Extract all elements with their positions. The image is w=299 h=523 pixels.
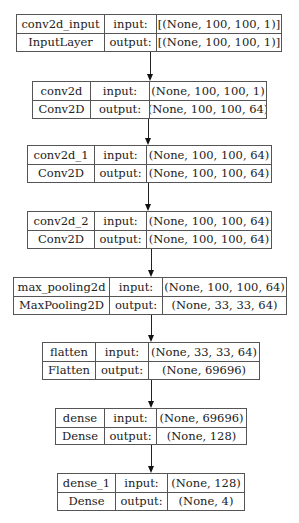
input-shape: (None, 100, 100, 64) <box>162 278 286 296</box>
layer-name: flatten <box>43 343 95 361</box>
layer-name: max_pooling2d <box>14 278 109 296</box>
layer-node-max-pooling2d: max_pooling2dinput:(None, 100, 100, 64)M… <box>13 277 287 315</box>
input-shape: [(None, 100, 100, 1)] <box>156 15 281 33</box>
edge-line <box>148 119 149 139</box>
output-row: Denseoutput:(None, 128) <box>56 427 246 444</box>
input-row: conv2d_1input:(None, 100, 100, 64) <box>28 146 271 165</box>
output-label: output: <box>104 33 156 51</box>
input-label: input: <box>94 146 146 164</box>
edge-line <box>151 380 152 402</box>
input-label: input: <box>104 409 156 427</box>
input-shape: (None, 33, 33, 64) <box>148 343 259 361</box>
input-shape: (None, 100, 100, 64) <box>146 212 271 230</box>
arrow-down-icon <box>148 401 154 408</box>
layer-node-dense-1: dense_1input:(None, 128)Denseoutput:(Non… <box>57 473 245 511</box>
layer-class: Dense <box>56 427 104 444</box>
output-row: Conv2Doutput:(None, 100, 100, 64) <box>33 100 266 118</box>
output-row: Conv2Doutput:(None, 100, 100, 64) <box>28 164 271 182</box>
edge-line <box>151 315 152 336</box>
layer-node-conv2d-input: conv2d_inputinput:[(None, 100, 100, 1)]I… <box>16 14 282 52</box>
input-row: conv2dinput:(None, 100, 100, 1) <box>33 82 266 101</box>
input-row: flatteninput:(None, 33, 33, 64) <box>43 343 259 362</box>
layer-class: Dense <box>58 492 115 510</box>
arrow-down-icon <box>148 270 154 277</box>
layer-node-flatten: flatteninput:(None, 33, 33, 64)Flattenou… <box>42 342 260 380</box>
edge-line <box>151 249 152 271</box>
output-shape: (None, 69696) <box>148 361 259 379</box>
output-label: output: <box>104 427 156 444</box>
edge-line <box>148 183 149 205</box>
layer-node-dense: denseinput:(None, 69696)Denseoutput:(Non… <box>55 408 247 445</box>
input-row: max_pooling2dinput:(None, 100, 100, 64) <box>14 278 286 297</box>
input-row: conv2d_2input:(None, 100, 100, 64) <box>28 212 271 231</box>
output-row: Denseoutput:(None, 4) <box>58 492 244 510</box>
layer-name: conv2d_input <box>17 15 104 33</box>
output-label: output: <box>95 361 148 379</box>
input-label: input: <box>90 82 149 100</box>
arrow-down-icon <box>147 74 153 81</box>
output-shape: [(None, 100, 100, 1)] <box>156 33 281 51</box>
layer-class: Conv2D <box>33 100 90 118</box>
output-label: output: <box>94 164 146 182</box>
input-shape: (None, 100, 100, 1) <box>149 82 266 100</box>
output-row: Conv2Doutput:(None, 100, 100, 64) <box>28 230 271 248</box>
input-row: conv2d_inputinput:[(None, 100, 100, 1)] <box>17 15 281 34</box>
layer-name: dense <box>56 409 104 427</box>
input-row: dense_1input:(None, 128) <box>58 474 244 493</box>
output-shape: (None, 100, 100, 64) <box>146 164 271 182</box>
output-shape: (None, 100, 100, 64) <box>149 100 266 118</box>
output-shape: (None, 100, 100, 64) <box>146 230 271 248</box>
arrow-down-icon <box>148 335 154 342</box>
input-shape: (None, 69696) <box>156 409 246 427</box>
input-label: input: <box>95 343 148 361</box>
layer-node-conv2d: conv2dinput:(None, 100, 100, 1)Conv2Dout… <box>32 81 267 119</box>
edge-line <box>150 52 151 75</box>
arrow-down-icon <box>145 138 151 145</box>
layer-node-conv2d-2: conv2d_2input:(None, 100, 100, 64)Conv2D… <box>27 211 272 249</box>
output-row: Flattenoutput:(None, 69696) <box>43 361 259 379</box>
layer-name: conv2d <box>33 82 90 100</box>
layer-class: MaxPooling2D <box>14 296 109 314</box>
layer-node-conv2d-1: conv2d_1input:(None, 100, 100, 64)Conv2D… <box>27 145 272 183</box>
input-shape: (None, 128) <box>167 474 244 492</box>
layer-class: Conv2D <box>28 164 94 182</box>
arrow-down-icon <box>148 466 154 473</box>
output-label: output: <box>109 296 162 314</box>
edge-line <box>151 445 152 467</box>
input-label: input: <box>115 474 167 492</box>
output-row: InputLayeroutput:[(None, 100, 100, 1)] <box>17 33 281 51</box>
input-label: input: <box>94 212 146 230</box>
arrow-down-icon <box>145 204 151 211</box>
layer-class: Conv2D <box>28 230 94 248</box>
output-label: output: <box>94 230 146 248</box>
output-shape: (None, 128) <box>156 427 246 444</box>
input-row: denseinput:(None, 69696) <box>56 409 246 428</box>
output-shape: (None, 33, 33, 64) <box>162 296 286 314</box>
layer-class: InputLayer <box>17 33 104 51</box>
layer-name: conv2d_2 <box>28 212 94 230</box>
output-row: MaxPooling2Doutput:(None, 33, 33, 64) <box>14 296 286 314</box>
output-label: output: <box>90 100 149 118</box>
input-label: input: <box>104 15 156 33</box>
layer-name: conv2d_1 <box>28 146 94 164</box>
output-shape: (None, 4) <box>167 492 244 510</box>
output-label: output: <box>115 492 167 510</box>
layer-class: Flatten <box>43 361 95 379</box>
input-label: input: <box>109 278 162 296</box>
input-shape: (None, 100, 100, 64) <box>146 146 271 164</box>
layer-name: dense_1 <box>58 474 115 492</box>
